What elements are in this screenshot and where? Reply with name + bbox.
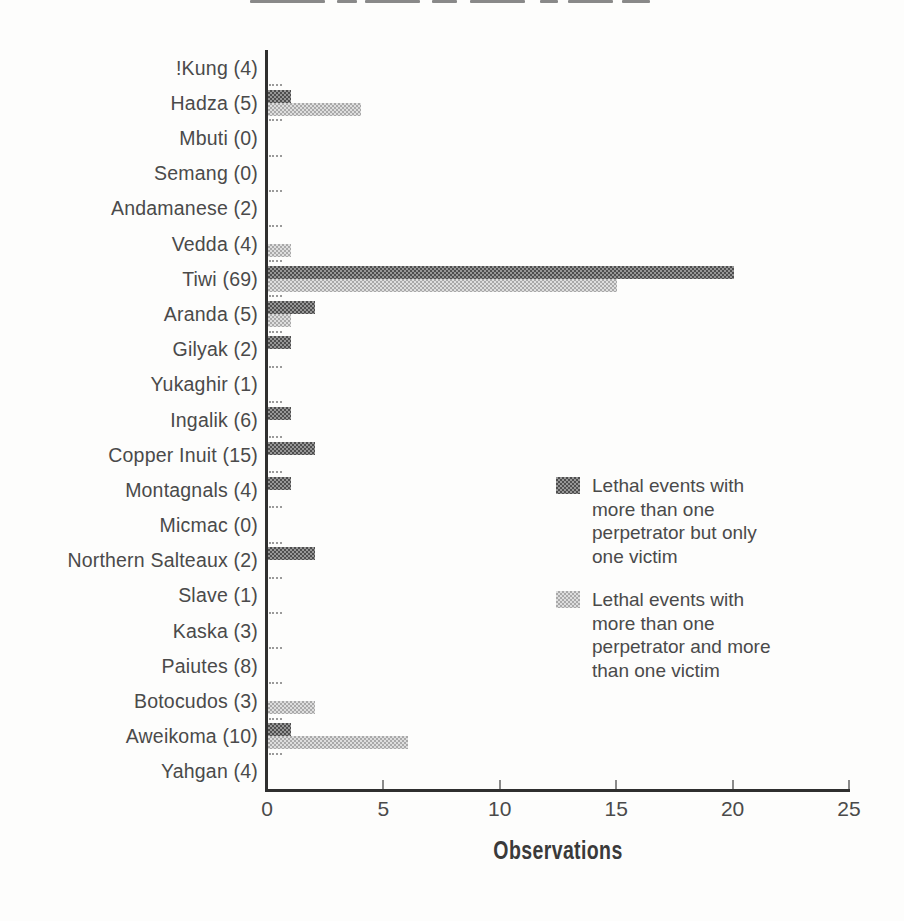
category-label: Andamanese (2) bbox=[0, 195, 258, 221]
category-label: Northern Salteaux (2) bbox=[0, 547, 258, 573]
category-separator-tick bbox=[269, 506, 282, 508]
category-separator-tick bbox=[269, 471, 282, 473]
category-separator-tick bbox=[269, 401, 282, 403]
category-separator-tick bbox=[269, 718, 282, 720]
category-label: Micmac (0) bbox=[0, 512, 258, 538]
category-separator-tick bbox=[269, 84, 282, 86]
bar-dark bbox=[268, 442, 315, 455]
legend-label-line: perpetrator and more bbox=[592, 635, 886, 659]
x-tick-mark bbox=[848, 780, 850, 789]
category-separator-tick bbox=[269, 577, 282, 579]
legend-item: Lethal events withmore than oneperpetrat… bbox=[556, 588, 886, 682]
category-label: Semang (0) bbox=[0, 160, 258, 186]
category-label: Tiwi (69) bbox=[0, 266, 258, 292]
x-tick-mark bbox=[499, 780, 501, 789]
category-label: Gilyak (2) bbox=[0, 336, 258, 362]
y-axis-line bbox=[265, 50, 268, 792]
category-label: Aweikoma (10) bbox=[0, 723, 258, 749]
category-label: Vedda (4) bbox=[0, 231, 258, 257]
category-label: Botocudos (3) bbox=[0, 688, 258, 714]
category-label: Yahgan (4) bbox=[0, 758, 258, 784]
x-axis-line bbox=[265, 789, 850, 792]
bar-dark bbox=[268, 547, 315, 560]
category-label: Ingalik (6) bbox=[0, 407, 258, 433]
x-tick-label: 15 bbox=[586, 797, 646, 821]
category-separator-tick bbox=[269, 753, 282, 755]
category-label: Aranda (5) bbox=[0, 301, 258, 327]
category-separator-tick bbox=[269, 155, 282, 157]
bar-dark bbox=[268, 90, 291, 103]
category-separator-tick bbox=[269, 119, 282, 121]
category-label: Kaska (3) bbox=[0, 618, 258, 644]
x-tick-label: 20 bbox=[703, 797, 763, 821]
x-tick-label: 25 bbox=[819, 797, 879, 821]
x-tick-label: 10 bbox=[470, 797, 530, 821]
category-separator-tick bbox=[269, 612, 282, 614]
legend-label-line: Lethal events with bbox=[592, 588, 886, 612]
category-separator-tick bbox=[269, 225, 282, 227]
category-separator-tick bbox=[269, 542, 282, 544]
bar-dark bbox=[268, 336, 291, 349]
category-separator-tick bbox=[269, 260, 282, 262]
category-separator-tick bbox=[269, 190, 282, 192]
x-tick-label: 0 bbox=[237, 797, 297, 821]
legend-label-line: one victim bbox=[592, 545, 886, 569]
category-label: Copper Inuit (15) bbox=[0, 442, 258, 468]
bar-light bbox=[268, 279, 617, 292]
category-label: Mbuti (0) bbox=[0, 125, 258, 151]
legend-label: Lethal events withmore than oneperpetrat… bbox=[592, 474, 886, 568]
category-label: Hadza (5) bbox=[0, 90, 258, 116]
bar-dark bbox=[268, 477, 291, 490]
legend-label-line: than one victim bbox=[592, 659, 886, 683]
x-tick-mark bbox=[732, 780, 734, 789]
category-separator-tick bbox=[269, 682, 282, 684]
bar-dark bbox=[268, 301, 315, 314]
category-label: Yukaghir (1) bbox=[0, 371, 258, 397]
legend-label-line: perpetrator but only bbox=[592, 521, 886, 545]
legend-label: Lethal events withmore than oneperpetrat… bbox=[592, 588, 886, 682]
category-separator-tick bbox=[269, 436, 282, 438]
legend-label-line: more than one bbox=[592, 612, 886, 636]
bar-light bbox=[268, 701, 315, 714]
category-separator-tick bbox=[269, 331, 282, 333]
x-tick-mark bbox=[615, 780, 617, 789]
category-separator-tick bbox=[269, 295, 282, 297]
legend-label-line: more than one bbox=[592, 498, 886, 522]
bar-dark bbox=[268, 407, 291, 420]
x-axis-title: Observations bbox=[441, 836, 675, 865]
x-tick-mark bbox=[382, 780, 384, 789]
bar-light bbox=[268, 314, 291, 327]
x-tick-label: 5 bbox=[353, 797, 413, 821]
bar-dark bbox=[268, 723, 291, 736]
bar-dark bbox=[268, 266, 734, 279]
legend-label-line: Lethal events with bbox=[592, 474, 886, 498]
category-separator-tick bbox=[269, 647, 282, 649]
legend-swatch-dark bbox=[556, 477, 580, 494]
category-label: Slave (1) bbox=[0, 582, 258, 608]
category-label: !Kung (4) bbox=[0, 55, 258, 81]
category-separator-tick bbox=[269, 366, 282, 368]
bar-light bbox=[268, 736, 408, 749]
legend-item: Lethal events withmore than oneperpetrat… bbox=[556, 474, 886, 568]
scanned-bar-chart-figure: !Kung (4)Hadza (5)Mbuti (0)Semang (0)And… bbox=[0, 0, 904, 921]
category-label: Montagnals (4) bbox=[0, 477, 258, 503]
legend-swatch-light bbox=[556, 591, 580, 608]
category-label: Paiutes (8) bbox=[0, 653, 258, 679]
bar-light bbox=[268, 103, 361, 116]
bar-light bbox=[268, 244, 291, 257]
